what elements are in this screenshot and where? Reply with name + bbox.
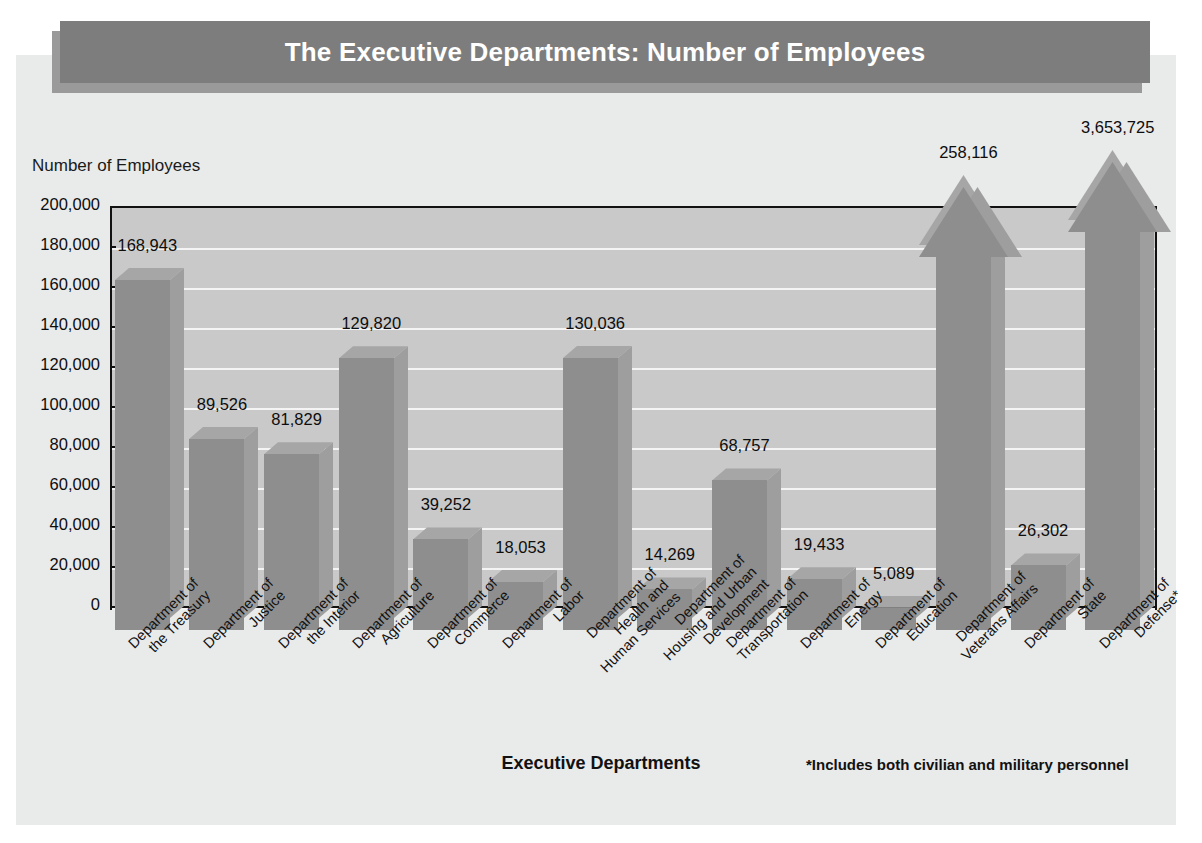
y-axis-title: Number of Employees — [32, 156, 200, 176]
bar-side-face — [170, 268, 184, 618]
bar-side-face — [394, 346, 408, 618]
y-axis-tick-label: 140,000 — [0, 315, 100, 334]
bar-front-face — [115, 280, 170, 630]
y-axis-tick-label: 100,000 — [0, 395, 100, 414]
chart-title: The Executive Departments: Number of Emp… — [285, 37, 926, 68]
y-axis-tick-label: 80,000 — [0, 435, 100, 454]
y-axis-tick-label: 40,000 — [0, 515, 100, 534]
y-axis-tick-label: 0 — [0, 595, 100, 614]
y-axis-tick-label: 60,000 — [0, 475, 100, 494]
bar-front-face — [936, 245, 991, 630]
bar[interactable] — [1085, 136, 1154, 620]
y-axis-tick-label: 160,000 — [0, 275, 100, 294]
y-axis-tick-label: 20,000 — [0, 555, 100, 574]
chart-page: The Executive Departments: Number of Emp… — [0, 0, 1202, 843]
bar-side-face — [1140, 208, 1154, 618]
bar-side-face — [991, 233, 1005, 618]
plot-right-border — [1155, 206, 1157, 610]
bar[interactable] — [115, 254, 184, 620]
title-banner: The Executive Departments: Number of Emp… — [60, 21, 1150, 83]
bar[interactable] — [936, 161, 1005, 620]
y-axis-tick-label: 120,000 — [0, 355, 100, 374]
chart-footnote: *Includes both civilian and military per… — [806, 756, 1129, 773]
y-axis-tick-label: 180,000 — [0, 235, 100, 254]
bar[interactable] — [339, 332, 408, 620]
y-axis-tickmark — [110, 246, 116, 248]
y-axis-tick-label: 200,000 — [0, 195, 100, 214]
bar-front-face — [1085, 220, 1140, 630]
bar-side-face — [618, 346, 632, 618]
bar[interactable] — [563, 332, 632, 620]
